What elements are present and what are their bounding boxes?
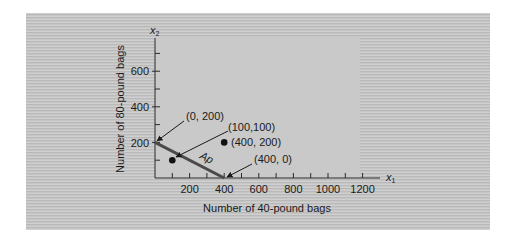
arrow-400-0 <box>227 164 252 177</box>
x-tick-label-200: 200 <box>180 183 198 195</box>
y-axis-title: Number of 80-pound bags <box>114 45 126 173</box>
annotation-400-200: (400, 200) <box>231 136 281 148</box>
annotation-100-100: (100,100) <box>228 121 275 133</box>
ap-line-label: Ap <box>197 149 215 166</box>
x-tick-label-400: 400 <box>215 183 233 195</box>
x-tick-label-800: 800 <box>284 183 302 195</box>
point-100-100 <box>169 157 176 164</box>
y-axis-symbol: x2 <box>149 24 160 37</box>
annotation-400-0: (400, 0) <box>254 153 292 165</box>
arrow-0-200 <box>157 121 184 141</box>
y-tick-label-400: 400 <box>131 101 149 113</box>
x-tick-label-600: 600 <box>250 183 268 195</box>
x-axis-title: Number of 40-pound bags <box>203 202 331 214</box>
chart: 200 400 600 200 400 600 800 1000 1200 x2… <box>0 0 517 241</box>
y-tick-label-600: 600 <box>131 65 149 77</box>
ap-line <box>155 142 224 178</box>
x-tick-label-1000: 1000 <box>316 183 340 195</box>
annotation-0-200: (0, 200) <box>186 110 224 122</box>
x-ticks <box>172 173 362 178</box>
point-400-200 <box>221 139 228 146</box>
x-tick-label-1200: 1200 <box>350 183 374 195</box>
y-tick-label-200: 200 <box>131 137 149 149</box>
x-axis-symbol: x1 <box>385 171 396 184</box>
